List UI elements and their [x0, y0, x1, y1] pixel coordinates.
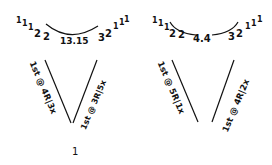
left-panel-neckline-arc: [46, 24, 98, 35]
right-count-5: 1: [257, 16, 263, 24]
right-count-1: 3: [98, 33, 105, 43]
right-count-3: 1: [113, 23, 119, 31]
left-count-1: 1: [16, 17, 22, 25]
left-count-4: 2: [34, 29, 41, 39]
right-count-3: 1: [245, 23, 251, 31]
left-center-label: 13.15: [60, 37, 88, 46]
right-center-label: 4.4: [193, 34, 211, 44]
right-count-2: 2: [236, 29, 243, 39]
left-count-3: 1: [28, 24, 34, 32]
left-count-4: 2: [169, 29, 176, 39]
right-count-1: 3: [228, 32, 235, 42]
right-count-2: 2: [105, 29, 112, 39]
left-count-2: 1: [158, 20, 164, 28]
left-panel-bottom-mark: 1: [72, 147, 78, 157]
left-count-5: 2: [43, 32, 50, 42]
right-count-4: 1: [251, 20, 257, 28]
left-count-1: 1: [152, 17, 158, 25]
right-count-5: 1: [124, 16, 130, 24]
left-count-5: 2: [178, 30, 185, 40]
left-count-2: 1: [22, 20, 28, 28]
